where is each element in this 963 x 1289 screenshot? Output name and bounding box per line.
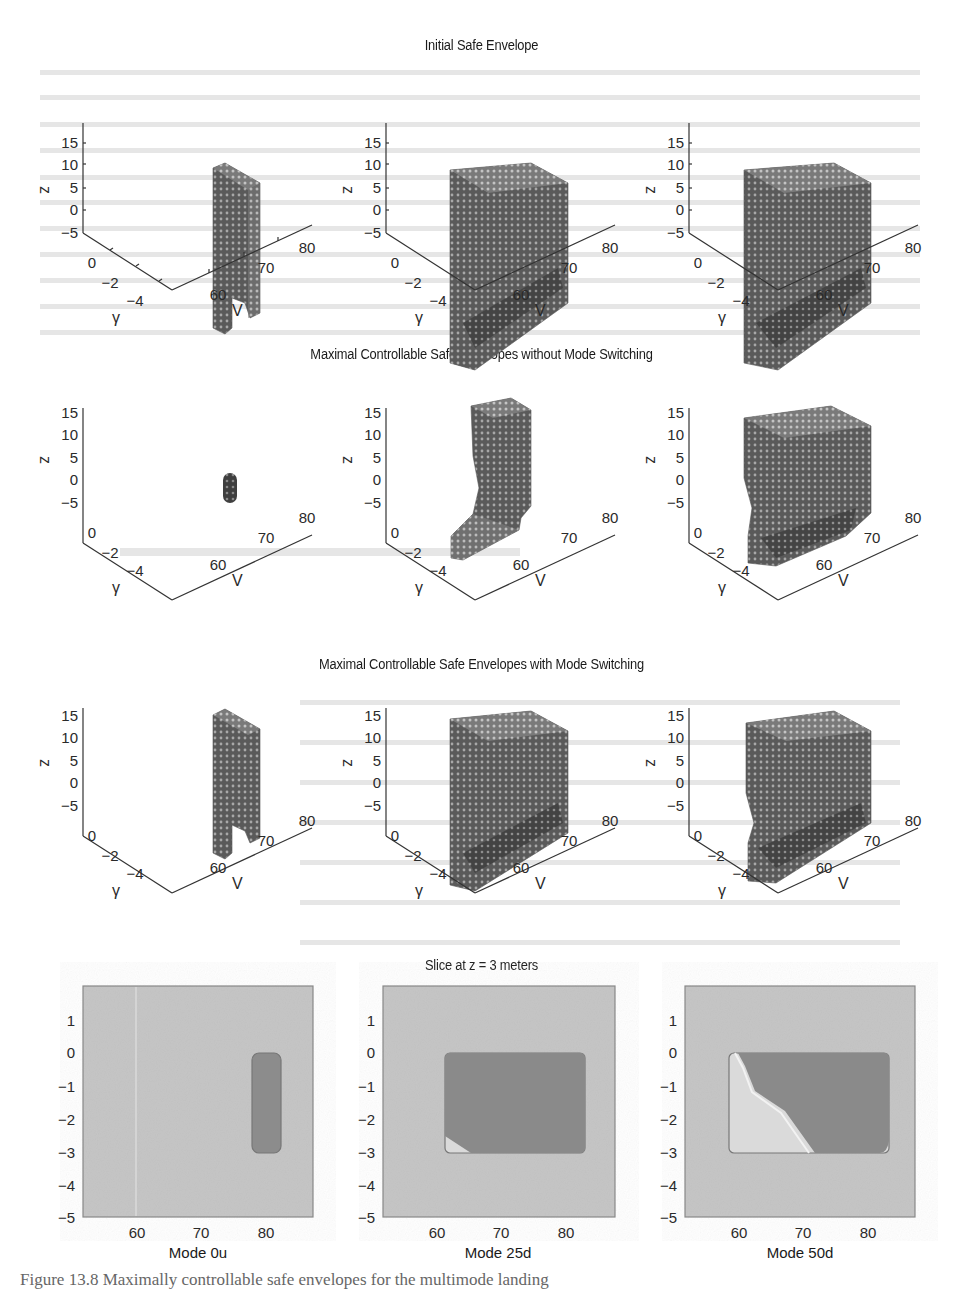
- svg-text:−3: −3: [660, 1144, 677, 1161]
- svg-text:70: 70: [561, 259, 578, 276]
- svg-text:10: 10: [61, 156, 78, 173]
- svg-text:80: 80: [905, 812, 922, 829]
- svg-text:5: 5: [70, 179, 78, 196]
- svg-text:10: 10: [61, 426, 78, 443]
- svg-text:0: 0: [70, 471, 78, 488]
- svg-text:γ: γ: [112, 579, 120, 596]
- svg-text:−5: −5: [61, 797, 78, 814]
- gamma-axis-label: γ: [112, 309, 120, 326]
- svg-text:−4: −4: [429, 292, 446, 309]
- svg-text:80: 80: [258, 1224, 275, 1241]
- svg-text:−3: −3: [58, 1144, 75, 1161]
- svg-text:80: 80: [558, 1224, 575, 1241]
- svg-text:70: 70: [795, 1224, 812, 1241]
- axes3d: [83, 123, 312, 290]
- svg-text:80: 80: [299, 239, 316, 256]
- svg-text:−5: −5: [364, 797, 381, 814]
- svg-text:z: z: [643, 186, 660, 194]
- svg-text:−4: −4: [358, 1177, 375, 1194]
- svg-text:−2: −2: [660, 1111, 677, 1128]
- svg-text:−5: −5: [667, 494, 684, 511]
- svg-text:V: V: [232, 572, 243, 589]
- svg-text:−5: −5: [364, 224, 381, 241]
- svg-text:0: 0: [88, 524, 96, 541]
- svg-text:−5: −5: [358, 1209, 375, 1226]
- svg-text:80: 80: [905, 239, 922, 256]
- svg-text:γ: γ: [718, 882, 726, 899]
- svg-text:70: 70: [561, 832, 578, 849]
- svg-text:15: 15: [61, 404, 78, 421]
- controllable-region: [445, 1053, 585, 1153]
- svg-text:V: V: [535, 875, 546, 892]
- svg-text:γ: γ: [415, 882, 423, 899]
- svg-text:−2: −2: [101, 274, 118, 291]
- svg-text:−2: −2: [404, 274, 421, 291]
- svg-text:−2: −2: [707, 274, 724, 291]
- svg-text:5: 5: [70, 752, 78, 769]
- svg-text:−4: −4: [429, 865, 446, 882]
- svg-text:−2: −2: [404, 847, 421, 864]
- svg-text:1: 1: [669, 1012, 677, 1029]
- svg-text:z: z: [37, 759, 54, 767]
- svg-text:γ: γ: [718, 309, 726, 326]
- svg-text:z: z: [37, 456, 54, 464]
- svg-text:80: 80: [602, 239, 619, 256]
- svg-text:−2: −2: [707, 847, 724, 864]
- svg-text:15: 15: [667, 707, 684, 724]
- svg-text:0: 0: [373, 471, 381, 488]
- svg-text:15: 15: [667, 404, 684, 421]
- svg-text:60: 60: [210, 556, 227, 573]
- svg-text:V: V: [232, 875, 243, 892]
- svg-text:0: 0: [373, 201, 381, 218]
- svg-text:15: 15: [61, 707, 78, 724]
- svg-text:70: 70: [864, 529, 881, 546]
- svg-text:z: z: [340, 186, 357, 194]
- svg-text:−1: −1: [358, 1078, 375, 1095]
- mode-label: Mode 25d: [465, 1244, 532, 1261]
- svg-text:−4: −4: [429, 562, 446, 579]
- svg-text:15: 15: [364, 404, 381, 421]
- svg-text:z: z: [643, 759, 660, 767]
- svg-text:0: 0: [391, 827, 399, 844]
- svg-text:−2: −2: [404, 544, 421, 561]
- svg-text:10: 10: [364, 426, 381, 443]
- figure-caption: Figure 13.8 Maximally controllable safe …: [20, 1270, 549, 1289]
- svg-text:γ: γ: [415, 579, 423, 596]
- svg-text:−5: −5: [660, 1209, 677, 1226]
- svg-text:0: 0: [373, 774, 381, 791]
- plot3d-nosw-mode-0u: 15 10 5 0 −5 z 0 −2 −4 γ 60 70 80 V: [20, 418, 330, 668]
- svg-text:−5: −5: [667, 797, 684, 814]
- svg-text:−1: −1: [58, 1078, 75, 1095]
- svg-text:−2: −2: [358, 1111, 375, 1128]
- svg-text:80: 80: [602, 812, 619, 829]
- safe-region: [252, 1053, 281, 1153]
- svg-text:0: 0: [676, 201, 684, 218]
- svg-text:60: 60: [816, 859, 833, 876]
- svg-text:60: 60: [816, 286, 833, 303]
- svg-text:10: 10: [667, 729, 684, 746]
- svg-text:γ: γ: [718, 579, 726, 596]
- svg-text:60: 60: [210, 286, 227, 303]
- plot3d-initial-mode-50d: 15 10 5 0 −5 z 0 −2 −4 γ 60 70 80 V: [626, 108, 936, 358]
- svg-text:10: 10: [667, 426, 684, 443]
- svg-text:60: 60: [210, 859, 227, 876]
- plot3d-sw-mode-25d: 15 10 5 0 −5 z 0 −2 −4 γ 60 70 80 V: [323, 723, 633, 973]
- svg-text:−2: −2: [101, 847, 118, 864]
- svg-text:−2: −2: [101, 544, 118, 561]
- svg-text:60: 60: [513, 859, 530, 876]
- svg-text:5: 5: [676, 752, 684, 769]
- svg-text:−4: −4: [660, 1177, 677, 1194]
- svg-text:0: 0: [676, 471, 684, 488]
- svg-text:−4: −4: [126, 292, 143, 309]
- svg-text:80: 80: [602, 509, 619, 526]
- svg-text:−2: −2: [707, 544, 724, 561]
- svg-text:70: 70: [493, 1224, 510, 1241]
- svg-text:0: 0: [694, 254, 702, 271]
- svg-text:70: 70: [864, 832, 881, 849]
- svg-text:−1: −1: [660, 1078, 677, 1095]
- svg-text:γ: γ: [112, 882, 120, 899]
- svg-text:60: 60: [731, 1224, 748, 1241]
- svg-text:V: V: [838, 875, 849, 892]
- svg-text:0: 0: [70, 774, 78, 791]
- svg-text:−5: −5: [58, 1209, 75, 1226]
